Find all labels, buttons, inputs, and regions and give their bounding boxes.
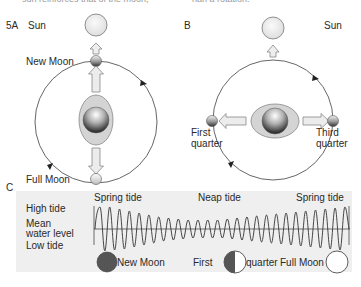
panel-c-label: C (6, 182, 13, 193)
water-level-label: water level (26, 228, 74, 239)
panel-b (207, 17, 339, 180)
full-moon-label: Full Moon (26, 174, 70, 185)
new-moon-phase-label: New Moon (117, 257, 165, 268)
tidal-pull-arrow-down-icon (89, 148, 104, 174)
arrow-up-icon (90, 43, 102, 54)
first-quarter-moon-icon (207, 116, 218, 127)
first-quarter-phase-label-quarter: quarter (246, 257, 278, 268)
third-quarter-label-line2: quarter (316, 138, 348, 149)
panel-a (35, 14, 157, 185)
sun-icon (85, 14, 107, 36)
low-tide-label: Low tide (26, 240, 63, 251)
first-quarter-label-line2: quarter (191, 138, 223, 149)
orbit-direction-arrow-icon (47, 163, 53, 170)
panel-b-label: B (184, 20, 191, 31)
panel-a-label: 5A (6, 20, 18, 31)
third-quarter-label-line1: Third (316, 127, 339, 138)
full-moon-phase-icon (326, 251, 348, 273)
orbit-direction-arrow-icon (140, 80, 147, 86)
first-quarter-phase-label-first: First (193, 257, 212, 268)
sun-label-b: Sun (324, 20, 342, 31)
spring-tide-label-left: Spring tide (94, 192, 142, 203)
neap-tide-label: Neap tide (198, 192, 241, 203)
new-moon-label: New Moon (26, 56, 74, 67)
full-moon-icon (91, 174, 102, 185)
first-quarter-phase-icon (224, 251, 246, 273)
first-quarter-label-line1: First (191, 127, 210, 138)
full-moon-phase-label: Full Moon (280, 257, 324, 268)
earth-icon (262, 108, 288, 134)
tidal-pull-arrow-left-icon (219, 114, 246, 129)
new-moon-phase-icon (97, 252, 117, 272)
tidal-pull-arrow-up-icon (89, 66, 104, 92)
spring-tide-label-right: Spring tide (296, 192, 344, 203)
high-tide-label: High tide (26, 203, 65, 214)
arrow-up-icon (267, 45, 279, 57)
earth-icon (83, 107, 109, 133)
third-quarter-moon-icon (328, 116, 339, 127)
sun-icon (262, 17, 284, 39)
tide-wave-chart (94, 206, 350, 251)
new-moon-icon (91, 56, 102, 67)
sun-label-a: Sun (28, 20, 46, 31)
